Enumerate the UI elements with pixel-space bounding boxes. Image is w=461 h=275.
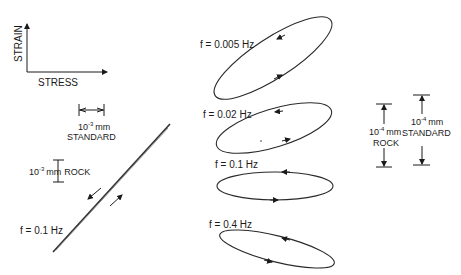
loop-label: f = 0.4 Hz bbox=[209, 219, 252, 230]
up-arrow bbox=[110, 195, 122, 206]
loop-label: f = 0.02 Hz bbox=[203, 109, 252, 120]
svg-text:10-3mmROCK: 10-3mmROCK bbox=[29, 166, 90, 177]
right-rock-scale: 10-4mm ROCK bbox=[369, 104, 401, 167]
loop-0-005hz: f = 0.005 Hz bbox=[200, 4, 342, 113]
narrow-loop-0-1hz: f = 0.1 Hz bbox=[20, 124, 170, 252]
rock-label-right: ROCK bbox=[373, 138, 399, 148]
standard-label-right: STANDARD bbox=[402, 128, 451, 138]
loop-label: f = 0.005 Hz bbox=[200, 39, 254, 50]
svg-text:10-4mm: 10-4mm bbox=[369, 126, 401, 137]
loop-0-02hz: f = 0.02 Hz bbox=[203, 92, 337, 163]
loop-0-1hz: f = 0.1 Hz bbox=[215, 159, 333, 200]
right-standard-scale: 10-4mm STANDARD bbox=[402, 95, 451, 165]
svg-text:10-4mm: 10-4mm bbox=[411, 116, 443, 127]
svg-text:10-3mm: 10-3mm bbox=[78, 121, 110, 132]
loop-0-4hz: f = 0.4 Hz bbox=[209, 219, 337, 275]
axes-key: STRAIN STRESS bbox=[13, 24, 107, 88]
stress-label: STRESS bbox=[38, 77, 78, 88]
standard-label-left: STANDARD bbox=[67, 132, 116, 142]
left-standard-scale: 10-3mm STANDARD bbox=[67, 104, 116, 142]
hysteresis-diagram: STRAIN STRESS 10-3mm STANDARD 10-3mmROCK… bbox=[0, 0, 461, 275]
strain-label: STRAIN bbox=[13, 25, 24, 62]
left-rock-scale: 10-3mmROCK bbox=[29, 160, 90, 182]
down-arrow bbox=[88, 188, 101, 199]
loop-label: f = 0.1 Hz bbox=[215, 159, 258, 170]
freq-label-left: f = 0.1 Hz bbox=[20, 225, 63, 236]
